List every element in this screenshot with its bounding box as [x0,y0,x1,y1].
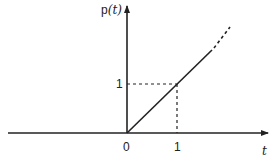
origin-label: 0 [123,140,130,154]
ramp-line-dashed [214,27,230,48]
ramp-line-solid [127,50,212,133]
y-axis-label: p(t) [101,3,122,17]
y-tick-1-label: 1 [116,77,123,91]
x-axis-label: t [262,144,267,158]
x-tick-1-label: 1 [174,140,181,154]
ramp-function-diagram: p(t) 1 0 1 t [0,0,271,159]
